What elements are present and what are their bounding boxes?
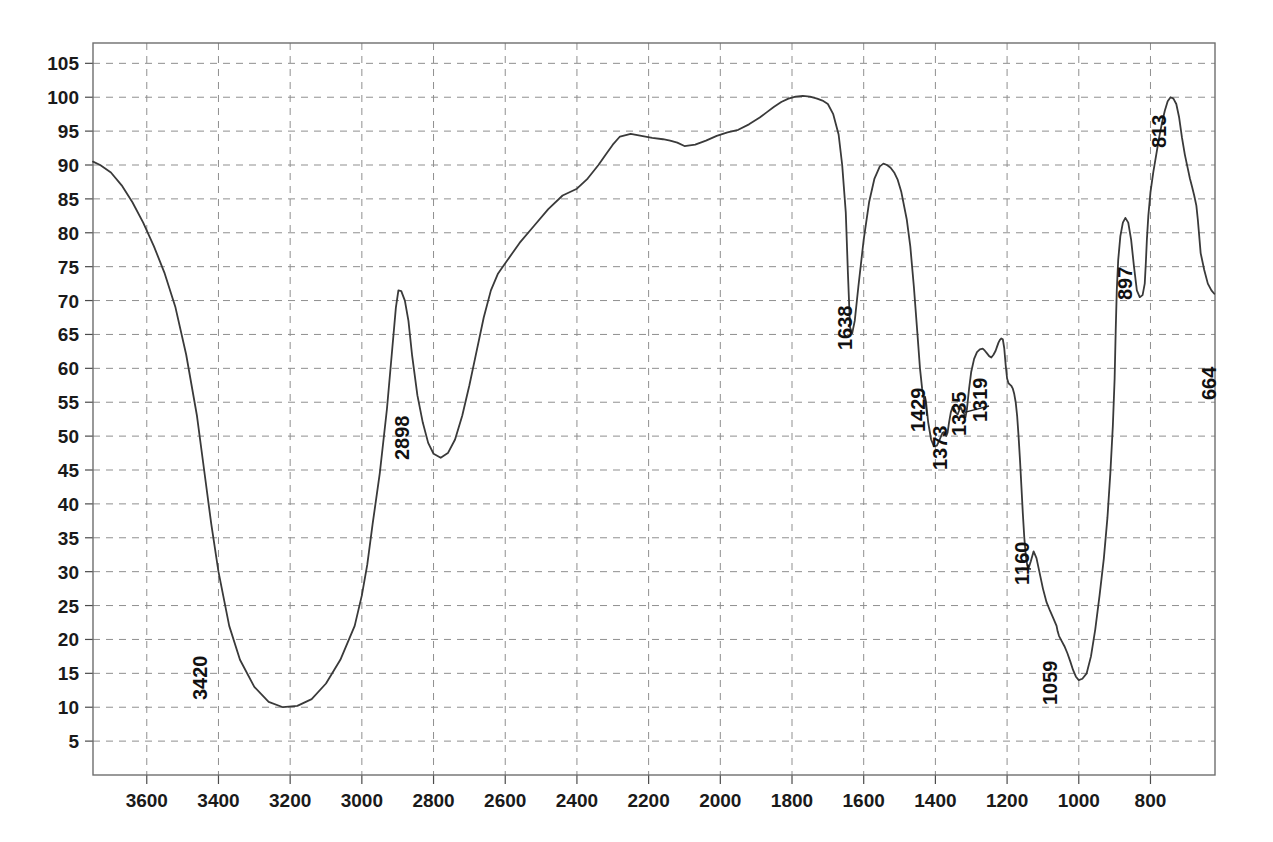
x-tick-label: 2000: [699, 790, 741, 811]
y-tick-label: 100: [47, 87, 79, 108]
y-tick-label: 30: [58, 562, 79, 583]
peak-label-897: 897: [1114, 267, 1136, 300]
y-tick-label: 75: [58, 257, 80, 278]
peak-label-813: 813: [1148, 115, 1170, 148]
y-tick-label: 35: [58, 528, 80, 549]
x-tick-label: 1400: [914, 790, 956, 811]
peak-label-1160: 1160: [1011, 542, 1033, 585]
x-tick-label: 2800: [412, 790, 454, 811]
y-tick-label: 80: [58, 223, 79, 244]
x-tick-label: 2400: [556, 790, 598, 811]
peak-label-664: 664: [1198, 366, 1220, 400]
x-axis-tick-labels: 3600340032003000280026002400220020001800…: [126, 790, 1167, 811]
x-tick-label: 1800: [771, 790, 813, 811]
y-tick-label: 10: [58, 697, 79, 718]
peak-label-1059: 1059: [1039, 661, 1061, 706]
y-tick-label: 40: [58, 494, 79, 515]
peak-label-1335: 1335: [948, 392, 970, 437]
peak-label-1638: 1638: [834, 306, 856, 351]
ftir-spectrum-chart: 5101520253035404550556065707580859095100…: [0, 0, 1273, 842]
y-tick-label: 65: [58, 324, 80, 345]
y-tick-label: 25: [58, 596, 80, 617]
y-tick-label: 95: [58, 121, 80, 142]
x-tick-label: 1000: [1058, 790, 1100, 811]
peak-label-1429: 1429: [907, 388, 929, 433]
y-tick-label: 5: [68, 731, 79, 752]
y-tick-label: 45: [58, 460, 80, 481]
chart-background: [0, 0, 1273, 842]
y-tick-label: 70: [58, 291, 79, 312]
y-tick-label: 20: [58, 629, 79, 650]
y-tick-label: 55: [58, 392, 80, 413]
y-tick-label: 15: [58, 663, 80, 684]
y-tick-label: 60: [58, 358, 79, 379]
x-tick-label: 1200: [986, 790, 1028, 811]
y-tick-label: 105: [47, 53, 79, 74]
x-tick-label: 800: [1135, 790, 1167, 811]
y-tick-label: 50: [58, 426, 79, 447]
y-tick-label: 90: [58, 155, 79, 176]
spectrum-page: 5101520253035404550556065707580859095100…: [0, 0, 1273, 842]
x-tick-label: 3400: [197, 790, 239, 811]
x-tick-label: 2200: [627, 790, 669, 811]
x-tick-label: 3200: [269, 790, 311, 811]
x-tick-label: 2600: [484, 790, 526, 811]
x-tick-label: 1600: [843, 790, 885, 811]
peak-label-3420: 3420: [189, 656, 211, 701]
peak-label-2898: 2898: [391, 416, 413, 461]
peak-label-1319: 1319: [969, 378, 991, 423]
x-tick-label: 3000: [341, 790, 383, 811]
x-tick-label: 3600: [126, 790, 168, 811]
y-tick-label: 85: [58, 189, 80, 210]
